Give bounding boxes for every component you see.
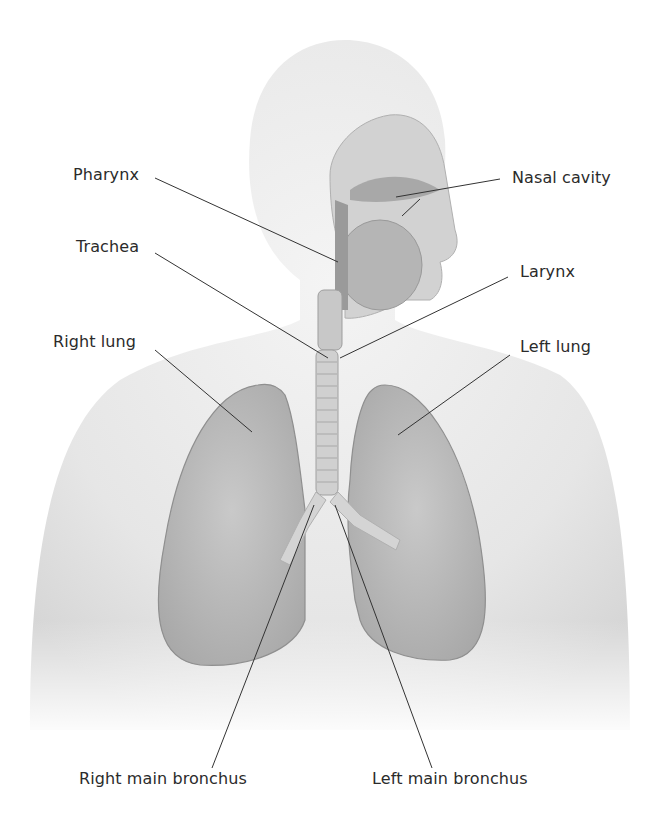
trachea (316, 290, 342, 495)
label-right-lung: Right lung (53, 332, 136, 351)
respiratory-system-illustration (0, 0, 649, 834)
label-nasal-cavity: Nasal cavity (512, 168, 611, 187)
head-cross-section (330, 115, 457, 319)
label-left-lung: Left lung (520, 337, 591, 356)
label-trachea: Trachea (76, 237, 139, 256)
label-right-main-bronchus: Right main bronchus (79, 769, 247, 788)
label-left-main-bronchus: Left main bronchus (372, 769, 528, 788)
label-larynx: Larynx (520, 262, 575, 281)
label-pharynx: Pharynx (73, 165, 139, 184)
